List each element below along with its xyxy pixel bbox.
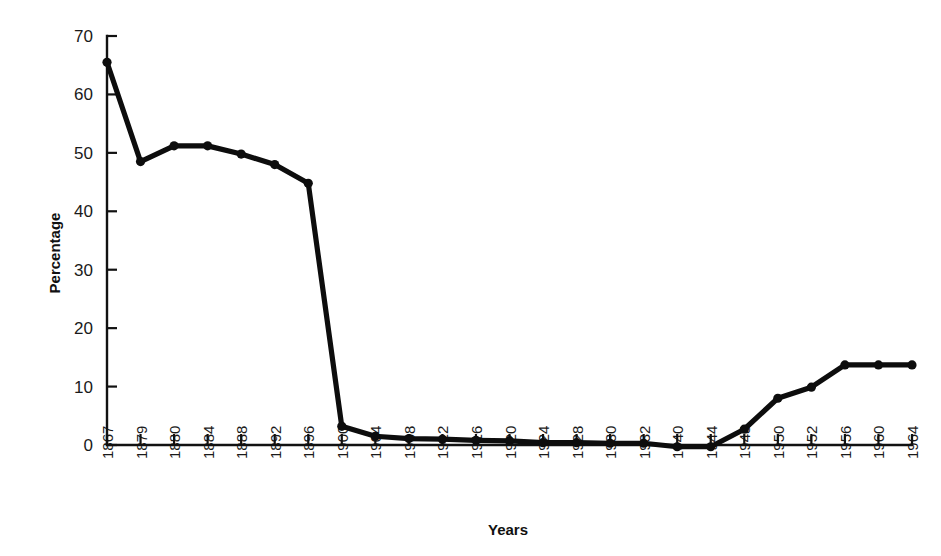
data-point-marker [471, 436, 480, 445]
series-line-percentage [107, 62, 912, 446]
data-point-marker [438, 435, 447, 444]
data-point-marker [505, 436, 514, 445]
data-point-marker [807, 383, 816, 392]
data-point-marker [237, 149, 246, 158]
axis-lines [107, 36, 912, 445]
data-point-marker [136, 157, 145, 166]
y-axis-tick-label: 10 [74, 378, 93, 397]
data-point-marker [773, 394, 782, 403]
line-chart: 010203040506070 186718791880188418881892… [0, 0, 941, 556]
y-axis-ticks [107, 36, 117, 445]
y-axis-tick-label: 50 [74, 144, 93, 163]
data-point-marker [169, 141, 178, 150]
data-point-marker [337, 422, 346, 431]
data-point-marker [538, 438, 547, 447]
y-axis-tick-label: 60 [74, 85, 93, 104]
data-point-marker [371, 432, 380, 441]
data-series-group [102, 58, 916, 452]
y-axis-tick-labels: 010203040506070 [74, 27, 93, 455]
data-point-marker [639, 439, 648, 448]
y-axis-tick-label: 30 [74, 261, 93, 280]
data-point-marker [304, 179, 313, 188]
x-axis-title: Years [488, 521, 528, 538]
data-point-marker [203, 141, 212, 150]
y-axis-tick-label: 0 [84, 436, 93, 455]
data-point-marker [874, 360, 883, 369]
data-point-marker [404, 434, 413, 443]
data-point-marker [572, 438, 581, 447]
data-point-marker [270, 160, 279, 169]
y-axis-tick-label: 40 [74, 202, 93, 221]
data-point-marker [840, 360, 849, 369]
y-axis-tick-label: 70 [74, 27, 93, 46]
data-point-marker [740, 425, 749, 434]
data-point-marker [907, 360, 916, 369]
y-axis-title: Percentage [46, 213, 63, 294]
data-point-marker [673, 442, 682, 451]
data-point-marker [102, 58, 111, 67]
data-point-marker [706, 442, 715, 451]
y-axis-tick-label: 20 [74, 319, 93, 338]
data-point-marker [606, 439, 615, 448]
chart-container: 010203040506070 186718791880188418881892… [0, 0, 941, 556]
